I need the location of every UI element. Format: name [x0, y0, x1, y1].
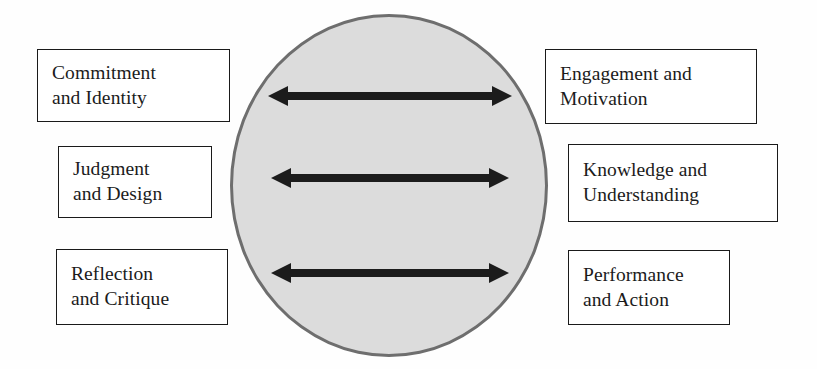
concept-box-performance-and-action: Performance and Action	[568, 250, 730, 325]
concept-label-line2: and Identity	[52, 86, 223, 111]
concept-box-commitment-and-identity: Commitment and Identity	[37, 49, 230, 122]
concept-label-line2: Motivation	[560, 87, 750, 112]
concept-label-line1: Engagement and	[560, 62, 750, 87]
concept-label-line1: Performance	[583, 263, 723, 288]
concept-label-line2: Understanding	[583, 183, 771, 208]
diagram-canvas: Commitment and Identity Judgment and Des…	[0, 0, 817, 369]
concept-label-line1: Reflection	[71, 262, 221, 287]
central-ellipse	[230, 14, 548, 357]
concept-box-engagement-and-motivation: Engagement and Motivation	[545, 49, 757, 124]
concept-label-line2: and Critique	[71, 287, 221, 312]
concept-label-line2: and Action	[583, 288, 723, 313]
concept-label-line1: Judgment	[73, 157, 205, 182]
concept-label-line1: Knowledge and	[583, 158, 771, 183]
concept-box-knowledge-and-understanding: Knowledge and Understanding	[568, 144, 778, 222]
concept-label-line2: and Design	[73, 182, 205, 207]
concept-box-judgment-and-design: Judgment and Design	[58, 146, 212, 218]
concept-label-line1: Commitment	[52, 61, 223, 86]
concept-box-reflection-and-critique: Reflection and Critique	[56, 249, 228, 325]
